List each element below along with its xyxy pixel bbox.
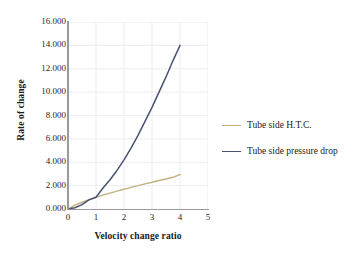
legend-line-swatch (222, 125, 241, 126)
y-axis-tick-label: 12.000 (24, 64, 66, 73)
y-axis-tick-label: 2.000 (24, 181, 66, 190)
gridlines (68, 22, 208, 209)
y-axis-tick-label: 8.000 (24, 111, 66, 120)
legend-entry[interactable]: Tube side pressure drop (222, 138, 338, 164)
x-axis-line (67, 209, 209, 210)
x-axis-tick-label: 4 (170, 212, 190, 223)
y-axis-tick-label: 16.000 (24, 17, 66, 26)
y-axis-tick-label: 6.000 (24, 134, 66, 143)
y-axis-tick-label: 14.000 (24, 40, 66, 49)
x-axis-tick-label: 5 (198, 212, 218, 223)
plot-svg (68, 22, 208, 209)
legend-line-swatch (222, 151, 241, 152)
x-axis-title: Velocity change ratio (48, 231, 228, 241)
legend-label: Tube side pressure drop (247, 146, 338, 156)
x-axis-tick-label: 3 (142, 212, 162, 223)
legend-label: Tube side H.T.C. (247, 120, 312, 130)
plot-area (68, 22, 208, 209)
y-axis-tick-label: 10.000 (24, 87, 66, 96)
chart-legend: Tube side H.T.C.Tube side pressure drop (222, 112, 338, 164)
x-axis-tick-label: 2 (114, 212, 134, 223)
x-axis-tick-label: 0 (58, 212, 78, 223)
chart-container: Rate of change 0.0002.0004.0006.0008.000… (0, 0, 359, 257)
x-axis-tick-labels: 012345 (68, 212, 208, 228)
legend-entry[interactable]: Tube side H.T.C. (222, 112, 338, 138)
y-axis-tick-label: 4.000 (24, 157, 66, 166)
x-axis-tick-label: 1 (86, 212, 106, 223)
y-axis-line (67, 21, 69, 210)
